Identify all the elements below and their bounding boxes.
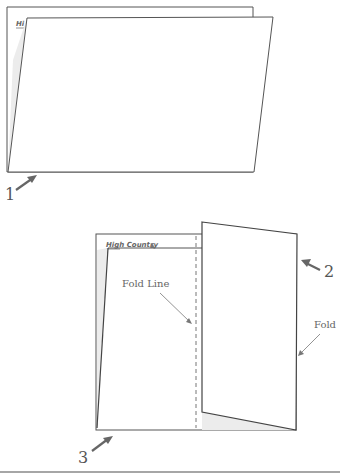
arrow-1-icon (16, 175, 37, 190)
step-label-1: 1 (5, 185, 15, 204)
step-label-2: 2 (324, 262, 334, 281)
front-page (8, 17, 273, 172)
folded-flap (202, 222, 297, 430)
fold-label: Fold (314, 319, 337, 330)
fold-pointer-icon (298, 334, 320, 356)
mountain-icon: ▲ (150, 241, 155, 248)
back-page-header: Hi (16, 20, 25, 28)
step-label-3: 3 (78, 448, 88, 467)
folding-diagram: Hi 1 High Country ▲ Fold Line (0, 0, 345, 476)
arrow-2-icon (301, 259, 320, 270)
arrow-3-icon (92, 436, 113, 451)
bottom-diagram: High Country ▲ Fold Line Fold 2 (78, 222, 337, 467)
fold-line-label: Fold Line (122, 278, 169, 289)
top-diagram: Hi 1 (5, 7, 273, 204)
